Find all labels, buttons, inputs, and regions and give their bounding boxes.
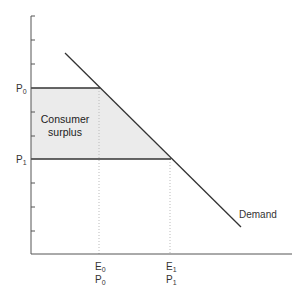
label-q1: P1 xyxy=(166,274,177,286)
label-q0: P0 xyxy=(95,274,106,286)
demand-label: Demand xyxy=(239,209,277,220)
label-e1: E1 xyxy=(166,261,177,273)
label-e0: E0 xyxy=(95,261,106,273)
consumer-surplus-label-line1: Consumer xyxy=(41,113,90,125)
y-axis-ticks xyxy=(31,40,35,231)
consumer-surplus-label-line2: surplus xyxy=(48,126,82,138)
label-p0: P0 xyxy=(16,83,27,95)
label-p1: P1 xyxy=(16,154,27,166)
consumer-surplus-diagram: P0 P1 E0 P0 E1 P1 Consumer surplus Deman… xyxy=(0,0,308,304)
